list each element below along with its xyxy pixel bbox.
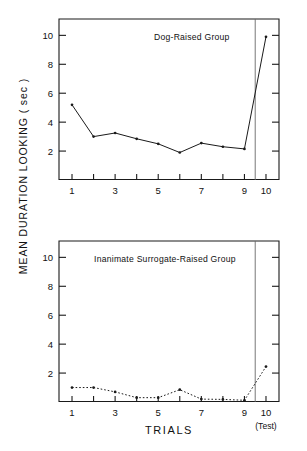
data-point (265, 365, 268, 368)
x-tick-label: 7 (199, 185, 204, 196)
data-point (222, 398, 225, 401)
data-point (243, 399, 246, 402)
x-tick-label: 1 (69, 185, 74, 196)
figure-root: MEAN DURATION LOOKING ( sec ) Dog-Raised… (0, 0, 307, 451)
panel-dog-raised-group: Dog-Raised Group 2468101357910 (58, 18, 280, 180)
data-point (178, 388, 181, 391)
data-point (92, 386, 95, 389)
plot-area-top (58, 18, 280, 180)
y-tick-label: 8 (48, 281, 53, 292)
x-axis-label: TRIALS (58, 424, 280, 436)
x-tick-label: 9 (242, 407, 247, 418)
y-axis-label: MEAN DURATION LOOKING ( sec ) (17, 61, 29, 291)
panel-title-top: Dog-Raised Group (154, 32, 230, 42)
data-point (135, 137, 138, 140)
x-tick-label: 7 (199, 407, 204, 418)
data-point (157, 396, 160, 399)
x-tick-label: 1 (69, 407, 74, 418)
axis-frame (59, 19, 279, 180)
x-tick-label: 3 (112, 407, 117, 418)
x-tick-label: 5 (156, 407, 161, 418)
y-tick-label: 2 (48, 146, 53, 157)
x-tick-label: 9 (242, 185, 247, 196)
axis-frame (59, 241, 279, 402)
y-tick-label: 4 (48, 339, 53, 350)
x-tick-label: 5 (156, 185, 161, 196)
x-tick-label: 3 (112, 185, 117, 196)
y-tick-label: 10 (42, 252, 53, 263)
y-tick-label: 6 (48, 310, 53, 321)
data-point (200, 398, 203, 401)
y-tick-label: 2 (48, 368, 53, 379)
data-point (157, 142, 160, 145)
panel-inanimate-surrogate-raised-group: Inanimate Surrogate-Raised Group 2468101… (58, 240, 280, 402)
data-point (71, 103, 74, 106)
data-point (178, 151, 181, 154)
data-point (135, 396, 138, 399)
data-point (114, 391, 117, 394)
data-series-line (72, 367, 266, 401)
panel-title-bottom: Inanimate Surrogate-Raised Group (94, 254, 236, 264)
data-point (265, 35, 268, 38)
data-point (222, 145, 225, 148)
data-point (71, 386, 74, 389)
y-tick-label: 6 (48, 88, 53, 99)
x-tick-label: 10 (261, 407, 272, 418)
data-series-line (72, 37, 266, 153)
data-point (92, 135, 95, 138)
y-tick-label: 8 (48, 59, 53, 70)
data-point (200, 142, 203, 145)
data-point (243, 148, 246, 151)
data-point (114, 132, 117, 135)
y-tick-label: 10 (42, 30, 53, 41)
x-tick-label: 10 (261, 185, 272, 196)
plot-area-bottom (58, 240, 280, 402)
y-tick-label: 4 (48, 117, 53, 128)
